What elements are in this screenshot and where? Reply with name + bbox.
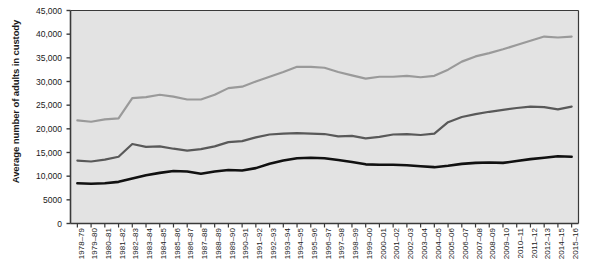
x-axis-tick-label: 1998–99 bbox=[355, 197, 364, 228]
x-axis-tick-label: 1987–88 bbox=[204, 197, 213, 228]
x-axis-tick-label: 2005–06 bbox=[451, 197, 460, 228]
x-axis-tick-label: 2006–07 bbox=[465, 197, 474, 228]
x-axis-tick-label: 1990–91 bbox=[245, 197, 254, 228]
x-axis-tick-label: 1981–82 bbox=[122, 197, 131, 228]
x-axis-tick-label: 1989–90 bbox=[232, 197, 241, 228]
x-axis-tick-label: 2002–03 bbox=[410, 197, 419, 228]
x-axis-tick-label: 2003–04 bbox=[424, 197, 433, 228]
x-axis-tick-label: 1986–87 bbox=[190, 197, 199, 228]
line-chart: Average number of adults in custody 0500… bbox=[0, 0, 602, 267]
x-axis-tick-labels: 1978–791979–801980–811981–821982–831983–… bbox=[0, 0, 602, 267]
x-axis-tick-label: 2011–12 bbox=[534, 197, 543, 228]
x-axis-tick-label: 1979–80 bbox=[94, 197, 103, 228]
x-axis-tick-label: 2004–05 bbox=[438, 197, 447, 228]
x-axis-tick-label: 2007–08 bbox=[479, 197, 488, 228]
x-axis-tick-label: 1991–92 bbox=[259, 197, 268, 228]
x-axis-tick-label: 2015–16 bbox=[575, 197, 584, 228]
x-axis-tick-label: 1992–93 bbox=[273, 197, 282, 228]
x-axis-tick-label: 2010–11 bbox=[520, 197, 529, 228]
x-axis-tick-label: 1982–83 bbox=[135, 197, 144, 228]
x-axis-tick-label: 1984–85 bbox=[163, 197, 172, 228]
x-axis-tick-label: 2008–09 bbox=[492, 197, 501, 228]
x-axis-tick-label: 1997–98 bbox=[341, 197, 350, 228]
x-axis-tick-label: 1999–00 bbox=[369, 197, 378, 228]
x-axis-tick-label: 2012–13 bbox=[547, 197, 556, 228]
x-axis-tick-label: 1980–81 bbox=[108, 197, 117, 228]
x-axis-tick-label: 1994–95 bbox=[300, 197, 309, 228]
x-axis-tick-label: 2000–01 bbox=[383, 197, 392, 228]
x-axis-tick-label: 1996–97 bbox=[328, 197, 337, 228]
x-axis-tick-label: 2009–10 bbox=[506, 197, 515, 228]
x-axis-tick-label: 2014–15 bbox=[561, 197, 570, 228]
x-axis-tick-label: 1995–96 bbox=[314, 197, 323, 228]
x-axis-tick-label: 1978–79 bbox=[81, 197, 90, 228]
x-axis-tick-label: 2001–02 bbox=[396, 197, 405, 228]
x-axis-tick-label: 1993–94 bbox=[287, 197, 296, 228]
x-axis-tick-label: 1988–89 bbox=[218, 197, 227, 228]
x-axis-tick-label: 1983–84 bbox=[149, 197, 158, 228]
x-axis-tick-label: 1985–86 bbox=[177, 197, 186, 228]
